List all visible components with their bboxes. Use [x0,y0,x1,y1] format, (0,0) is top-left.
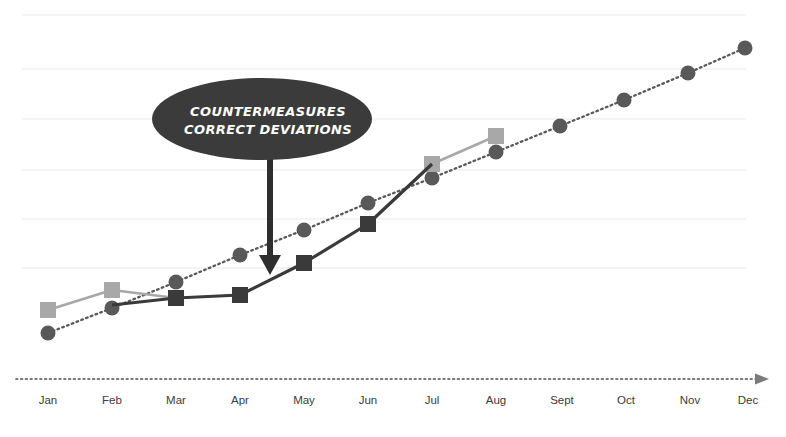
x-tick-oct: Oct [617,394,636,406]
callout-text-line2: CORRECT DEVIATIONS [184,122,352,137]
marker-target-nov [681,66,696,81]
marker-actual-jun [360,216,376,232]
marker-target-jan [41,326,56,341]
marker-target-aug [489,145,504,160]
x-tick-jul: Jul [425,394,440,406]
x-tick-feb: Feb [102,394,122,406]
x-tick-may: May [293,394,315,406]
x-tick-jan: Jan [39,394,58,406]
marker-plan-feb [104,282,120,298]
chart-canvas: COUNTERMEASURES CORRECT DEVIATIONS Jan F… [0,0,786,437]
x-tick-apr: Apr [231,394,249,406]
marker-target-may [297,223,312,238]
x-tick-mar: Mar [166,394,186,406]
x-tick-nov: Nov [680,394,701,406]
marker-target-sept [553,119,568,134]
marker-target-jun [361,196,376,211]
marker-target-dec [738,41,753,56]
marker-target-apr [233,248,248,263]
callout-text-line1: COUNTERMEASURES [190,104,346,119]
callout-arrow-head-icon [259,255,281,275]
marker-actual-mar [168,290,184,306]
callout-bubble [152,78,372,160]
x-tick-aug: Aug [486,394,506,406]
x-axis-arrow-icon [755,374,769,385]
countermeasures-callout: COUNTERMEASURES CORRECT DEVIATIONS [152,78,372,160]
marker-target-oct [617,93,632,108]
x-tick-sept: Sept [550,394,574,406]
gridlines [22,15,746,268]
x-tick-jun: Jun [359,394,378,406]
line-chart: COUNTERMEASURES CORRECT DEVIATIONS Jan F… [0,0,786,437]
series-target-line [48,48,745,333]
marker-plan-aug [488,128,504,144]
x-tick-dec: Dec [738,394,759,406]
marker-actual-may [296,255,312,271]
marker-plan-jan [40,302,56,318]
x-tick-labels: Jan Feb Mar Apr May Jun Jul Aug Sept Oct… [39,394,759,406]
marker-target-mar [169,275,184,290]
marker-actual-apr [232,287,248,303]
x-axis [16,374,769,385]
marker-target-jul [425,171,440,186]
marker-target-feb [105,301,120,316]
